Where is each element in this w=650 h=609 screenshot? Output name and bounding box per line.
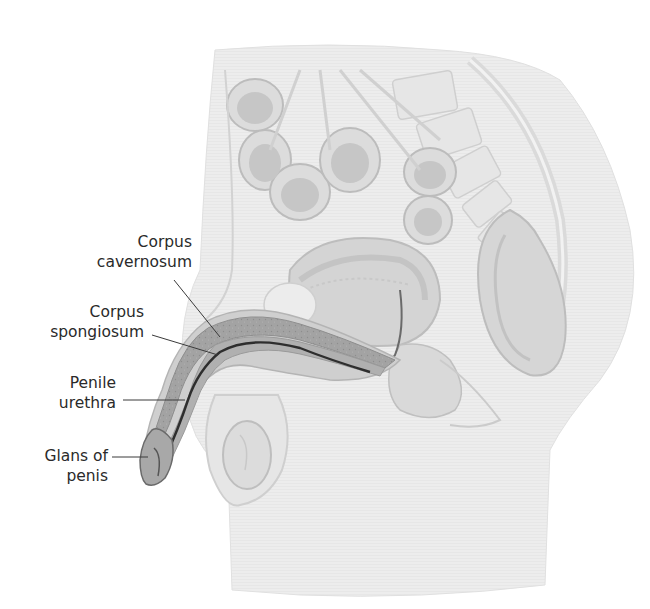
label-line: cavernosum bbox=[97, 252, 192, 272]
label-corpus-cavernosum: Corpus cavernosum bbox=[97, 232, 192, 272]
label-line: spongiosum bbox=[50, 322, 144, 342]
label-corpus-spongiosum: Corpus spongiosum bbox=[50, 302, 144, 342]
label-line: urethra bbox=[59, 393, 116, 413]
label-line: Corpus bbox=[50, 302, 144, 322]
label-line: penis bbox=[44, 466, 108, 486]
label-glans-of-penis: Glans of penis bbox=[44, 446, 108, 486]
anatomy-figure: Corpus cavernosum Corpus spongiosum Peni… bbox=[0, 0, 650, 609]
label-line: Glans of bbox=[44, 446, 108, 466]
label-line: Penile bbox=[59, 373, 116, 393]
label-penile-urethra: Penile urethra bbox=[59, 373, 116, 413]
label-line: Corpus bbox=[97, 232, 192, 252]
